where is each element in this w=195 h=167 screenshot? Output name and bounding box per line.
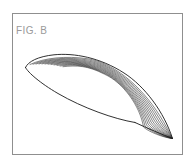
figure-canvas: FIG. B <box>0 0 195 167</box>
figure-label: FIG. B <box>16 25 47 37</box>
